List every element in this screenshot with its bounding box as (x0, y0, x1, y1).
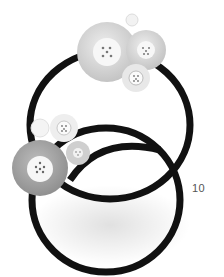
upper-button-cluster (77, 14, 166, 92)
catalog-page: 10 (0, 0, 224, 277)
hair-tie-photo (0, 0, 224, 277)
page-number: 10 (192, 182, 205, 194)
lower-button-cluster (12, 114, 90, 196)
